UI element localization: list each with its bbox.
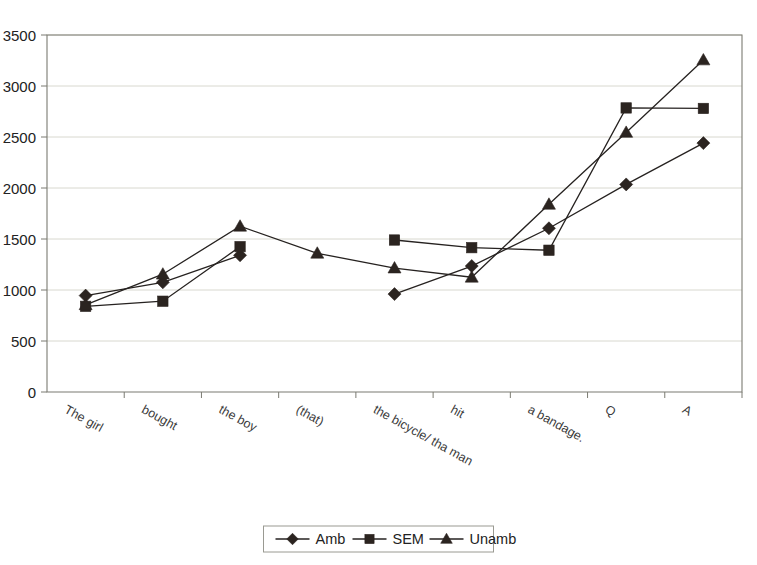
marker-triangle (311, 247, 324, 258)
legend-label: Amb (316, 531, 346, 547)
y-axis-tick-labels: 0500100015002000250030003500 (3, 27, 36, 401)
gridlines-group (41, 35, 742, 392)
marker-diamond (542, 222, 555, 235)
x-axis-tick-label: A (680, 402, 695, 419)
x-axis-tick-label: the boy (217, 402, 260, 434)
y-axis-tick-label: 1000 (3, 282, 36, 299)
marker-square (544, 245, 554, 255)
marker-square (621, 103, 631, 113)
legend-label: SEM (393, 531, 424, 547)
chart-container: 0500100015002000250030003500 The girlbou… (0, 0, 757, 565)
marker-triangle (156, 268, 169, 279)
marker-square (158, 296, 168, 306)
marker-diamond (620, 178, 633, 191)
y-axis-tick-label: 3500 (3, 27, 36, 44)
marker-square (235, 241, 245, 251)
chart-legend: AmbSEMUnamb (264, 526, 517, 552)
x-axis-tick-labels: The girlboughtthe boy(that)the bicycle/ … (62, 392, 742, 469)
x-axis-tick-label: a bandage. (525, 402, 587, 445)
x-axis-tick-label: The girl (62, 402, 105, 434)
marker-square (467, 242, 477, 252)
marker-diamond (697, 137, 710, 150)
marker-square (389, 235, 399, 245)
y-axis-tick-label: 0 (28, 384, 36, 401)
series-sem (80, 103, 708, 312)
axes-group (47, 35, 742, 392)
marker-triangle (234, 220, 247, 231)
series-line (395, 143, 704, 294)
marker-triangle (697, 53, 710, 64)
series-amb (79, 137, 710, 302)
y-axis-tick-label: 1500 (3, 231, 36, 248)
series-unamb (79, 53, 710, 309)
legend-label: Unamb (470, 531, 517, 547)
x-axis-tick-label: Q (603, 402, 619, 419)
y-axis-tick-label: 500 (11, 333, 36, 350)
y-axis-tick-label: 2500 (3, 129, 36, 146)
x-axis-tick-label: (that) (294, 402, 326, 428)
marker-square (365, 534, 374, 543)
plot-frame (47, 35, 742, 392)
line-chart-plot: 0500100015002000250030003500 The girlbou… (0, 0, 757, 565)
y-axis-tick-label: 2000 (3, 180, 36, 197)
y-axis-tick-label: 3000 (3, 78, 36, 95)
x-axis-tick-label: hit (448, 402, 467, 421)
data-series-group (79, 53, 710, 311)
marker-square (698, 103, 708, 113)
x-axis-tick-label: bought (139, 402, 180, 433)
